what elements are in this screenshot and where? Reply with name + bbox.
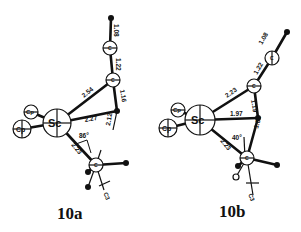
structure-10b: C C Sc Cp Cp C C3 1.08 1.22 1.19 2.23 1.…: [159, 29, 290, 221]
angle-label: 86°: [79, 132, 89, 139]
atom-h-right: [274, 162, 280, 168]
atom-label: C: [270, 55, 274, 61]
structure-label-10a: 10a: [57, 204, 83, 223]
cp-label: Cp: [16, 126, 25, 134]
bond-length-label: 1.97: [230, 110, 243, 117]
bond-length-label: 1.19: [250, 99, 259, 113]
bond-length-label: 2.12: [104, 112, 113, 126]
angle-label: 40°: [232, 134, 242, 141]
atom-h-a: [85, 169, 91, 175]
atom-label: C: [94, 162, 98, 168]
atom-label: C: [108, 45, 112, 51]
c3-label: C3: [103, 191, 111, 201]
metal-label: Sc: [48, 117, 61, 129]
cp-label: Cp: [162, 125, 171, 133]
bond-length-label: 2.27: [84, 114, 98, 123]
atom-h-b: [85, 184, 91, 190]
atom-label: C: [252, 83, 256, 89]
atom-c3: [114, 108, 120, 114]
atom-h-b: [233, 174, 239, 180]
bond-length-label: 2.23: [219, 137, 233, 151]
metal-label: Sc: [191, 114, 204, 126]
atom-label: C: [245, 155, 249, 161]
c3-label: C3: [247, 193, 255, 203]
atom-h-a: [235, 163, 241, 169]
bond-length-label: 1.08: [257, 31, 270, 46]
bond-length-label: 1.16: [119, 89, 128, 103]
atom-h-top: [284, 29, 290, 35]
molecular-diagram: C C Sc Cp Cp C C3 1.08 1.22 1.16 2.54 2.…: [0, 0, 301, 232]
atom-label: C: [111, 77, 115, 83]
cp-label: Cp: [173, 107, 181, 113]
cp-label: Cp: [26, 109, 34, 115]
structure-label-10b: 10b: [219, 202, 245, 221]
bond-length-label: 2.23: [70, 141, 84, 155]
bond-length-label: 1.22: [115, 58, 122, 71]
atom-h-top: [108, 15, 114, 21]
structure-10a: C C Sc Cp Cp C C3 1.08 1.22 1.16 2.54 2.…: [13, 15, 129, 223]
atom-h-right: [123, 160, 129, 166]
bond-length-label: 1.08: [113, 24, 120, 37]
